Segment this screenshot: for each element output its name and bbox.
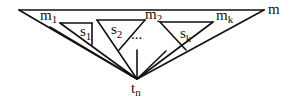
label-sk: sk [180, 25, 192, 44]
label-ellipsis: ... [131, 26, 142, 42]
label-m2: m2 [145, 6, 162, 24]
label-tn: tn [131, 80, 141, 98]
triangle-diagram: m m1 s1 s2 ... m2 sk mk tn [0, 0, 295, 104]
s1-hypotenuse [60, 23, 137, 79]
label-m: m [268, 1, 280, 17]
sk-right-edge [137, 22, 213, 79]
m1-edge [50, 27, 137, 79]
label-s2: s2 [111, 21, 122, 40]
